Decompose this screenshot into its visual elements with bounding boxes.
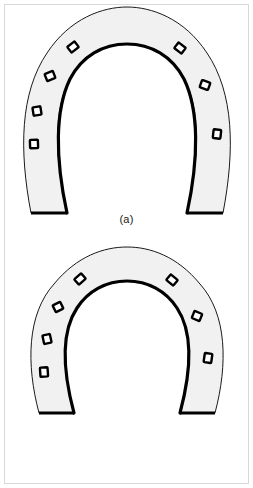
horseshoe-diagram-b: [0, 244, 253, 488]
horseshoe-diagram-a: [0, 0, 253, 244]
nail-hole: [192, 311, 203, 321]
horseshoe-outer-outline-a: [24, 7, 231, 213]
horseshoe-outer-outline-b: [31, 247, 223, 413]
horseshoe-inner-edge-b: [65, 281, 189, 413]
horseshoe-body-b: [31, 247, 223, 413]
nail-hole: [32, 106, 41, 116]
nail-hole: [213, 129, 221, 139]
figure-plate: (a): [0, 0, 253, 488]
nail-hole: [200, 80, 211, 90]
horseshoe-body-a: [24, 7, 231, 213]
figure-a: (a): [0, 0, 253, 244]
nail-hole: [53, 302, 64, 313]
nail-hole: [30, 140, 38, 149]
horseshoe-inner-edge-a: [58, 44, 195, 213]
nail-hole: [40, 367, 48, 377]
nail-hole: [44, 71, 55, 81]
nail-hole: [42, 334, 51, 344]
figure-b: (b): [0, 244, 253, 488]
figure-caption-a: (a): [0, 213, 253, 225]
nail-hole: [204, 353, 213, 363]
